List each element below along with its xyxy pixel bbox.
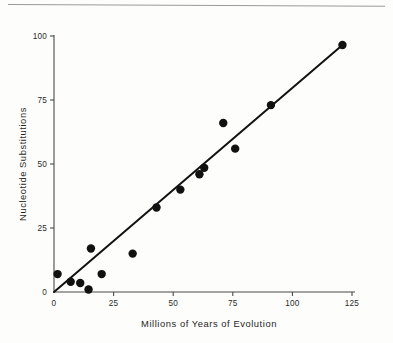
data-point-13 xyxy=(267,101,275,109)
scatter-plot: 25507510002550751001250 Millions of Year… xyxy=(0,0,393,343)
data-point-3 xyxy=(84,285,92,293)
x-tick-label-75: 75 xyxy=(228,299,238,308)
data-point-11 xyxy=(219,119,227,127)
x-tick-label-25: 25 xyxy=(109,299,119,308)
data-point-12 xyxy=(231,144,239,152)
data-point-5 xyxy=(97,270,105,278)
data-point-7 xyxy=(152,203,160,211)
data-point-10 xyxy=(200,164,208,172)
axis-labels-group: Millions of Years of EvolutionNucleotide… xyxy=(17,107,277,329)
data-point-2 xyxy=(76,279,84,287)
data-point-8 xyxy=(176,185,184,193)
x-tick-label-0: 0 xyxy=(52,299,57,308)
figure-container: 25507510002550751001250 Millions of Year… xyxy=(0,0,393,343)
x-tick-label-50: 50 xyxy=(168,299,178,308)
data-point-1 xyxy=(66,278,74,286)
y-tick-label-0: 0 xyxy=(42,288,47,297)
y-tick-label-50: 50 xyxy=(37,160,47,169)
fit-line-group xyxy=(54,45,342,292)
data-point-4 xyxy=(87,244,95,252)
y-tick-label-25: 25 xyxy=(37,224,47,233)
data-point-6 xyxy=(128,249,136,257)
y-tick-label-100: 100 xyxy=(33,32,48,41)
x-tick-label-100: 100 xyxy=(285,299,300,308)
data-point-0 xyxy=(53,270,61,278)
x-tick-label-125: 125 xyxy=(345,299,360,308)
y-tick-label-75: 75 xyxy=(37,96,47,105)
y-axis-title: Nucleotide Substitutions xyxy=(17,107,28,221)
data-point-14 xyxy=(338,41,346,49)
regression-line xyxy=(54,45,342,292)
x-axis-title: Millions of Years of Evolution xyxy=(141,318,277,329)
